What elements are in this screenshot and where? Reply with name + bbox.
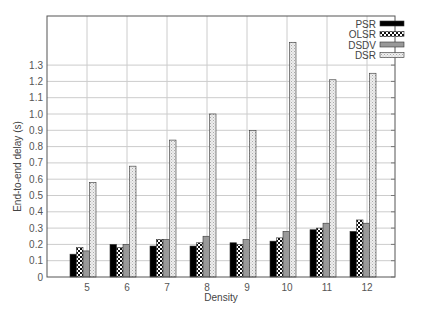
bar-dsr (370, 73, 377, 277)
y-tick-label: 0.7 (29, 157, 43, 168)
x-tick-label: 7 (164, 282, 170, 293)
bar-psr (270, 241, 277, 277)
bar-olsr (357, 220, 364, 277)
bar-psr (190, 246, 197, 277)
y-tick-label: 0.6 (29, 174, 43, 185)
legend-label-dsr: DSR (355, 50, 376, 61)
bar-chart: 00.10.20.30.40.50.60.70.80.91.01.11.21.3… (0, 0, 424, 315)
bar-olsr (157, 240, 164, 277)
legend-label-dsdv: DSDV (348, 40, 376, 51)
x-tick-label: 12 (361, 282, 373, 293)
bars (70, 42, 376, 277)
bar-dsr (130, 166, 137, 277)
legend-swatch-dsdv (380, 42, 404, 47)
bar-psr (110, 244, 117, 277)
bar-psr (230, 243, 237, 277)
bar-dsdv (243, 240, 250, 277)
bar-olsr (237, 244, 244, 277)
bar-dsr (90, 182, 97, 277)
y-tick-label: 1.0 (29, 109, 43, 120)
bar-psr (70, 254, 77, 277)
bar-dsdv (163, 240, 170, 277)
y-tick-label: 0 (37, 272, 43, 283)
x-tick-label: 6 (124, 282, 130, 293)
grid-lines (47, 16, 395, 277)
bar-dsr (330, 80, 337, 277)
bar-dsr (290, 42, 297, 277)
y-tick-label: 1.1 (29, 92, 43, 103)
bar-psr (150, 246, 157, 277)
y-tick-label: 0.5 (29, 190, 43, 201)
legend-swatch-dsr (380, 53, 404, 58)
legend: PSROLSRDSDVDSR (348, 19, 404, 62)
bar-dsdv (123, 244, 130, 277)
bar-dsdv (363, 223, 370, 277)
x-tick-label: 9 (244, 282, 250, 293)
x-tick-label: 11 (322, 282, 333, 293)
bar-dsdv (203, 236, 210, 277)
bar-dsdv (83, 251, 90, 277)
y-tick-label: 0.9 (29, 125, 43, 136)
x-axis-label: Density (204, 292, 237, 303)
x-tick-label: 5 (84, 282, 90, 293)
bar-dsdv (323, 223, 330, 277)
y-tick-label: 0.8 (29, 141, 43, 152)
y-tick-label: 0.3 (29, 223, 43, 234)
bar-olsr (117, 248, 124, 277)
bar-olsr (197, 243, 204, 277)
bar-olsr (277, 238, 284, 277)
bar-olsr (77, 248, 84, 277)
y-tick-label: 0.1 (29, 255, 43, 266)
bar-dsr (210, 114, 217, 277)
bar-dsr (250, 130, 257, 277)
bar-olsr (317, 228, 324, 277)
legend-swatch-olsr (380, 32, 404, 37)
x-tick-label: 10 (281, 282, 293, 293)
y-tick-label: 0.2 (29, 239, 43, 250)
y-axis-label: End-to-end delay (s) (12, 121, 23, 212)
legend-swatch-psr (380, 21, 404, 26)
y-tick-label: 1.3 (29, 60, 43, 71)
legend-label-olsr: OLSR (349, 29, 376, 40)
bar-psr (350, 231, 357, 277)
y-tick-label: 0.4 (29, 206, 43, 217)
bar-dsr (170, 140, 177, 277)
bar-psr (310, 230, 317, 277)
bar-dsdv (283, 231, 290, 277)
legend-label-psr: PSR (355, 19, 376, 30)
y-tick-label: 1.2 (29, 76, 43, 87)
